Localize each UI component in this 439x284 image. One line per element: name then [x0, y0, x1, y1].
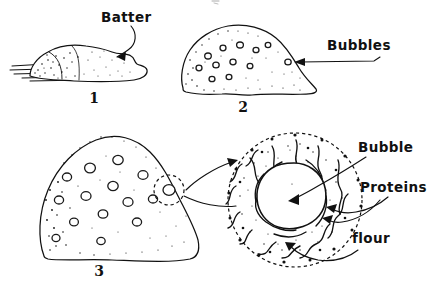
panel-3-number: 3 — [94, 263, 104, 279]
proteins-arrowhead — [326, 204, 337, 213]
top-edge-partial-mark — [212, 1, 219, 4]
magnify-connector-arrowhead — [227, 158, 238, 167]
panel-3-risen-batter: 3 — [40, 136, 199, 279]
panel-1-number: 1 — [89, 90, 99, 106]
bubbles-arrow-line — [300, 57, 380, 62]
detail-bubble-void — [257, 163, 326, 229]
panel-2-rising-batter: 2 — [182, 25, 317, 115]
flour-label: flour — [352, 230, 390, 246]
proteins-annotation: Proteins — [322, 179, 427, 224]
bubble-label: Bubble — [358, 139, 413, 155]
bubbles-label: Bubbles — [327, 37, 391, 53]
proteins-label: Proteins — [360, 179, 427, 195]
panel-1-flat-batter: 1 — [10, 45, 147, 106]
diagram-canvas: 1 Batter — [0, 0, 439, 284]
hand-drawn-diagram: 1 Batter — [0, 0, 439, 284]
panel-3-highlighted-bubble — [163, 185, 175, 196]
panel-2-number: 2 — [238, 99, 248, 115]
detail-void-speck — [291, 183, 292, 184]
bubbles-annotation: Bubbles — [294, 37, 391, 66]
magnify-connector-line — [186, 162, 232, 190]
panel-1-blob-outline — [30, 45, 147, 81]
proteins-arrowhead-2 — [322, 215, 333, 224]
batter-leader-line — [117, 26, 135, 57]
panel-2-blob-outline — [182, 25, 317, 95]
batter-label: Batter — [101, 9, 152, 25]
